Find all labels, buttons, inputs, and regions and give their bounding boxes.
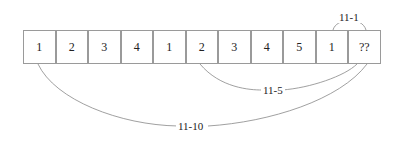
sequence-cell: 2: [56, 30, 89, 64]
sequence-cell: 5: [283, 30, 316, 64]
cell-value: 5: [296, 40, 302, 55]
sequence-cell: 4: [251, 30, 284, 64]
sequence-cell: 2: [186, 30, 219, 64]
cell-value: 4: [264, 40, 270, 55]
arc-11-10: [38, 64, 178, 126]
cell-value: 4: [134, 40, 140, 55]
cell-value: 1: [36, 40, 42, 55]
unknown-cell: ??: [348, 30, 381, 64]
cell-value: 3: [231, 40, 237, 55]
arc-11-5: [200, 64, 262, 90]
cell-value: 1: [329, 40, 335, 55]
arc-label-11-5: 11-5: [261, 84, 285, 96]
cell-value: 2: [199, 40, 205, 55]
sequence-cell: 3: [218, 30, 251, 64]
sequence-cell: 1: [316, 30, 349, 64]
sequence-cell: 3: [88, 30, 121, 64]
arc-label-11-1: 11-1: [337, 11, 361, 23]
cell-value: 3: [101, 40, 107, 55]
arc-label-11-10: 11-10: [176, 120, 205, 132]
arc-11-5-right: [282, 64, 357, 90]
cell-value: 1: [166, 40, 172, 55]
cell-value: ??: [359, 40, 370, 55]
sequence-cell: 4: [121, 30, 154, 64]
sequence-cell: 1: [23, 30, 56, 64]
cell-value: 2: [69, 40, 75, 55]
sequence-cell: 1: [153, 30, 186, 64]
